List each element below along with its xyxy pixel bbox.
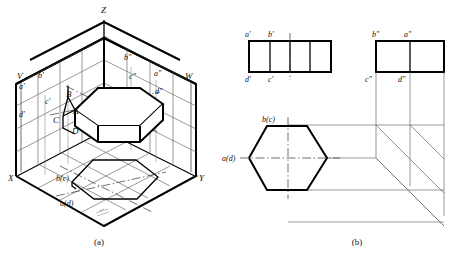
a-double-prime-label: a" [154, 69, 162, 78]
point-b-label: B [66, 89, 72, 99]
top-view-bc-label: b(c) [262, 115, 275, 124]
top-view: b(c) a(d) [222, 115, 340, 199]
orthographic-diagram: a' b' d' c' b" a" c" d" [222, 30, 444, 247]
front-view-c-prime: c' [268, 75, 274, 84]
w-plane-label: W [185, 71, 194, 81]
d-double-prime-label: d" [155, 87, 163, 96]
caption-a: (a) [94, 237, 104, 247]
point-a-label: A [72, 106, 79, 116]
axonometric-diagram: Z X Y V W A B C D a' b' c' d' b" a" c" d… [7, 5, 205, 247]
side-view-d-double-prime: d" [398, 75, 406, 84]
bc-top-label: b(c) [56, 174, 69, 183]
z-axis-label: Z [101, 5, 107, 15]
side-view: b" a" c" d" [365, 30, 444, 84]
side-view-b-double-prime: b" [372, 30, 380, 39]
x-axis-label: X [7, 173, 14, 183]
a-prime-label: a' [19, 82, 25, 91]
caption-b: (b) [352, 237, 363, 247]
d-prime-label: d' [19, 110, 25, 119]
c-prime-label: c' [45, 97, 51, 106]
side-view-a-double-prime: a" [404, 30, 412, 39]
top-view-ad-label: a(d) [222, 154, 236, 163]
y-axis-label: Y [199, 173, 205, 183]
front-view-b-prime: b' [268, 30, 274, 39]
ad-top-label: a(d) [60, 199, 74, 208]
front-view-d-prime: d' [245, 75, 251, 84]
engineering-drawing-figure: Z X Y V W A B C D a' b' c' d' b" a" c" d… [0, 0, 450, 255]
point-c-label: C [53, 115, 60, 125]
c-double-prime-label: c" [129, 72, 137, 81]
side-view-c-double-prime: c" [365, 75, 373, 84]
front-view: a' b' d' c' [245, 30, 331, 84]
b-double-prime-label: b" [124, 53, 132, 62]
point-d-label: D [71, 126, 79, 136]
b-prime-label: b' [38, 71, 44, 80]
front-view-a-prime: a' [245, 30, 251, 39]
